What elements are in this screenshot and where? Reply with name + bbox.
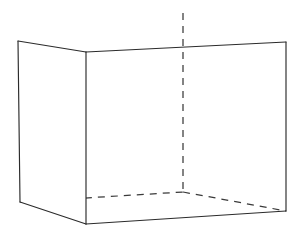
open-box-line-drawing <box>0 0 296 239</box>
face-overlays <box>18 41 86 224</box>
left-wall-face-overlay <box>18 41 86 224</box>
figure-canvas: Open box perspective line drawing Wirefr… <box>0 0 296 239</box>
